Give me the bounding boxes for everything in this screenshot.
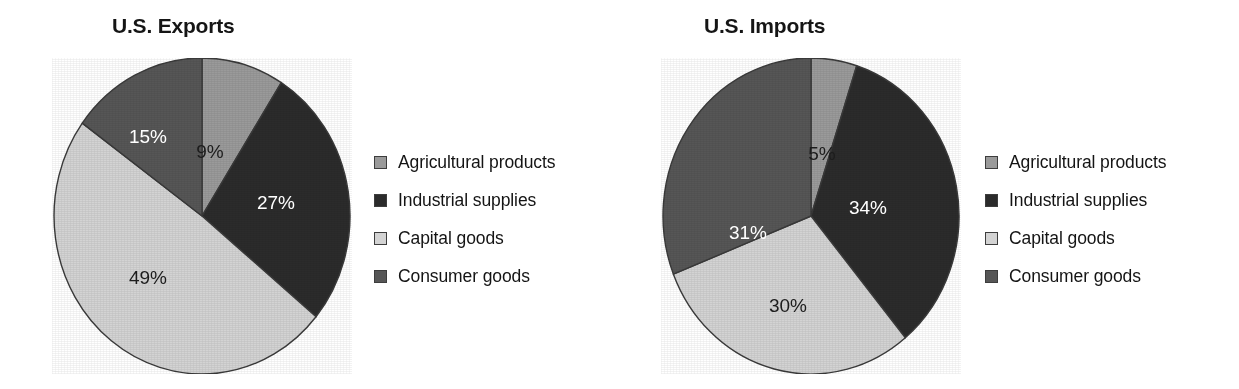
slice-label-consumer-goods: 15% xyxy=(129,126,167,148)
legend-label-agricultural-products: Agricultural products xyxy=(1009,152,1166,173)
legend-swatch-icon-agricultural-products xyxy=(374,156,387,169)
page-title-imports: U.S. Imports xyxy=(704,14,825,38)
legend-label-consumer-goods: Consumer goods xyxy=(398,266,530,287)
slice-label-agricultural-products: 9% xyxy=(196,141,223,163)
legend-swatch-icon-capital-goods xyxy=(985,232,998,245)
legend-item-capital-goods[interactable]: Capital goods xyxy=(374,219,555,257)
slice-label-capital-goods: 30% xyxy=(769,295,807,317)
legend-swatch-icon-consumer-goods xyxy=(985,270,998,283)
slice-label-industrial-supplies: 34% xyxy=(849,197,887,219)
legend-item-agricultural-products[interactable]: Agricultural products xyxy=(985,143,1166,181)
imports-panel: U.S. Imports 5% 34% 30% 31% Agricultural… xyxy=(619,0,1239,389)
exports-legend: Agricultural products Industrial supplie… xyxy=(374,143,555,295)
legend-label-industrial-supplies: Industrial supplies xyxy=(1009,190,1147,211)
slice-label-capital-goods: 49% xyxy=(129,267,167,289)
legend-item-capital-goods[interactable]: Capital goods xyxy=(985,219,1166,257)
legend-label-industrial-supplies: Industrial supplies xyxy=(398,190,536,211)
exports-slices xyxy=(54,58,350,374)
legend-swatch-icon-agricultural-products xyxy=(985,156,998,169)
legend-label-consumer-goods: Consumer goods xyxy=(1009,266,1141,287)
imports-pie-chart: 5% 34% 30% 31% xyxy=(661,58,961,374)
slice-label-industrial-supplies: 27% xyxy=(257,192,295,214)
legend-swatch-icon-capital-goods xyxy=(374,232,387,245)
legend-item-consumer-goods[interactable]: Consumer goods xyxy=(985,257,1166,295)
legend-swatch-icon-consumer-goods xyxy=(374,270,387,283)
legend-item-agricultural-products[interactable]: Agricultural products xyxy=(374,143,555,181)
imports-legend: Agricultural products Industrial supplie… xyxy=(985,143,1166,295)
legend-label-capital-goods: Capital goods xyxy=(398,228,504,249)
legend-item-consumer-goods[interactable]: Consumer goods xyxy=(374,257,555,295)
exports-panel: U.S. Exports 9% 27% 49% 15% Agricultural… xyxy=(0,0,620,389)
legend-swatch-icon-industrial-supplies xyxy=(374,194,387,207)
legend-label-capital-goods: Capital goods xyxy=(1009,228,1115,249)
slice-label-agricultural-products: 5% xyxy=(808,143,835,165)
imports-slices xyxy=(663,58,959,374)
legend-swatch-icon-industrial-supplies xyxy=(985,194,998,207)
exports-pie-svg xyxy=(52,58,352,374)
page-title-exports: U.S. Exports xyxy=(112,14,234,38)
legend-item-industrial-supplies[interactable]: Industrial supplies xyxy=(374,181,555,219)
exports-pie-chart: 9% 27% 49% 15% xyxy=(52,58,352,374)
legend-item-industrial-supplies[interactable]: Industrial supplies xyxy=(985,181,1166,219)
imports-pie-svg xyxy=(661,58,961,374)
slice-label-consumer-goods: 31% xyxy=(729,222,767,244)
legend-label-agricultural-products: Agricultural products xyxy=(398,152,555,173)
